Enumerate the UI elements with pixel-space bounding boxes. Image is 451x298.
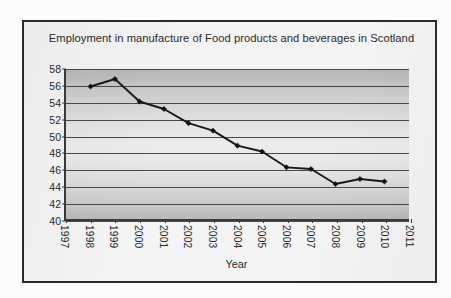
- x-tick-label-2003: 2003: [207, 225, 218, 248]
- data-point-2010: [382, 179, 387, 184]
- x-axis-title: Year: [64, 258, 409, 270]
- x-tick-label-2008: 2008: [330, 225, 341, 248]
- x-tick-mark-2002: [189, 219, 190, 223]
- x-tick-mark-1997: [66, 219, 67, 223]
- x-tick-label-2010: 2010: [379, 225, 390, 248]
- x-tick-label-2000: 2000: [133, 225, 144, 248]
- plot-area: 40424446485052545658 1997199819992000200…: [64, 69, 409, 221]
- y-tick-label-50: 50: [49, 131, 61, 143]
- x-tick-label-2011: 2011: [404, 225, 415, 248]
- data-point-1998: [88, 84, 93, 89]
- y-tick-label-56: 56: [49, 80, 61, 92]
- y-tick-label-58: 58: [49, 63, 61, 75]
- x-tick-mark-1998: [91, 219, 92, 223]
- chart-frame: Employment in manufacture of Food produc…: [22, 20, 437, 283]
- x-tick-label-2002: 2002: [182, 225, 193, 248]
- data-point-2009: [357, 176, 362, 181]
- series-plot: [66, 69, 409, 219]
- y-tick-label-52: 52: [49, 114, 61, 126]
- x-tick-mark-2005: [263, 219, 264, 223]
- x-tick-mark-2007: [312, 219, 313, 223]
- x-tick-mark-2001: [165, 219, 166, 223]
- y-tick-label-54: 54: [49, 97, 61, 109]
- x-tick-mark-2010: [386, 219, 387, 223]
- y-tick-label-48: 48: [49, 147, 61, 159]
- x-tick-mark-2009: [362, 219, 363, 223]
- x-tick-label-2006: 2006: [281, 225, 292, 248]
- x-tick-mark-2000: [140, 219, 141, 223]
- x-tick-mark-1999: [115, 219, 116, 223]
- x-tick-label-1997: 1997: [59, 225, 70, 248]
- x-tick-label-1999: 1999: [108, 225, 119, 248]
- y-tick-label-42: 42: [49, 198, 61, 210]
- y-tick-label-44: 44: [49, 181, 61, 193]
- series-markers: [88, 76, 387, 186]
- x-tick-label-2007: 2007: [305, 225, 316, 248]
- y-tick-label-46: 46: [49, 164, 61, 176]
- chart-title: Employment in manufacture of Food produc…: [24, 32, 439, 44]
- x-tick-label-1998: 1998: [84, 225, 95, 248]
- x-tick-mark-2003: [214, 219, 215, 223]
- x-tick-label-2009: 2009: [355, 225, 366, 248]
- x-tick-label-2001: 2001: [158, 225, 169, 248]
- page-canvas: Employment in manufacture of Food produc…: [0, 0, 451, 298]
- x-tick-mark-2011: [411, 219, 412, 223]
- x-tick-label-2004: 2004: [232, 225, 243, 248]
- x-tick-label-2005: 2005: [256, 225, 267, 248]
- x-tick-mark-2008: [337, 219, 338, 223]
- gridline-40: [66, 221, 409, 222]
- series-line-employment: [90, 79, 384, 184]
- x-tick-mark-2006: [288, 219, 289, 223]
- x-tick-mark-2004: [239, 219, 240, 223]
